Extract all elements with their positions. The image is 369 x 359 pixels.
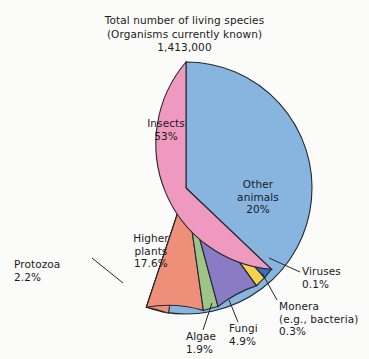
label-fungi-name: Fungi xyxy=(229,322,258,335)
label-other-animals-pct: 20% xyxy=(215,203,301,216)
label-other-animals: Other animals 20% xyxy=(215,178,301,216)
label-fungi: Fungi 4.9% xyxy=(229,322,258,347)
label-viruses: Viruses 0.1% xyxy=(302,265,341,290)
label-algae-pct: 1.9% xyxy=(186,343,216,356)
label-protozoa-name: Protozoa xyxy=(14,258,60,271)
label-higher-plants-pct: 17.6% xyxy=(108,257,194,270)
label-fungi-pct: 4.9% xyxy=(229,335,258,348)
label-insects-name: Insects xyxy=(116,117,216,130)
label-higher-plants-name-2: plants xyxy=(108,245,194,258)
label-higher-plants-name-1: Higher xyxy=(108,232,194,245)
label-insects: Insects 53% xyxy=(116,117,216,142)
label-monera: Monera (e.g., bacteria) 0.3% xyxy=(279,300,358,338)
label-algae: Algae 1.9% xyxy=(186,330,216,355)
label-monera-name-2: (e.g., bacteria) xyxy=(279,313,358,326)
label-monera-name-1: Monera xyxy=(279,300,358,313)
label-monera-pct: 0.3% xyxy=(279,325,358,338)
label-insects-pct: 53% xyxy=(116,130,216,143)
label-higher-plants: Higher plants 17.6% xyxy=(108,232,194,270)
label-protozoa-pct: 2.2% xyxy=(14,271,60,284)
label-protozoa: Protozoa 2.2% xyxy=(14,258,60,283)
pie-chart-figure: Total number of living species (Organism… xyxy=(0,0,369,359)
label-viruses-pct: 0.1% xyxy=(302,278,341,291)
label-other-animals-name-2: animals xyxy=(215,191,301,204)
label-algae-name: Algae xyxy=(186,330,216,343)
label-viruses-name: Viruses xyxy=(302,265,341,278)
label-other-animals-name-1: Other xyxy=(215,178,301,191)
